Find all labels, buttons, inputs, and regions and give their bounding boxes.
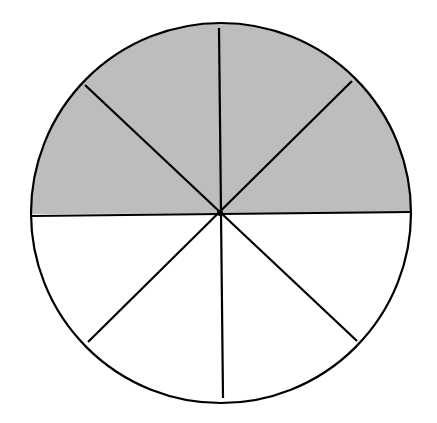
center-point [217,210,223,216]
fraction-circle-diagram [0,0,437,423]
